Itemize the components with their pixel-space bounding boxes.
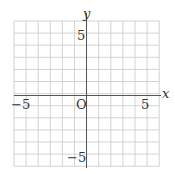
y-axis-label: y bbox=[82, 6, 91, 21]
tick-label-x-pos5: 5 bbox=[141, 97, 149, 112]
coordinate-plane: y x O −5 5 5 −5 bbox=[0, 0, 175, 174]
origin-label: O bbox=[76, 97, 87, 112]
tick-label-x-neg5: −5 bbox=[11, 97, 30, 112]
tick-label-y-neg5: −5 bbox=[67, 150, 86, 165]
tick-label-y-pos5: 5 bbox=[77, 28, 85, 43]
x-axis-label: x bbox=[162, 86, 170, 101]
